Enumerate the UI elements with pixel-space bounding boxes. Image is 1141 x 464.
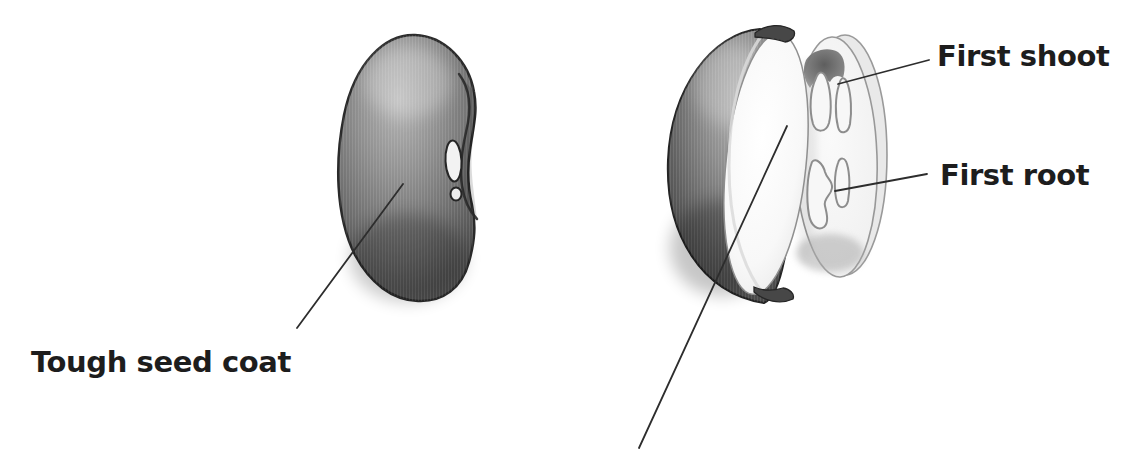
label-first-root: First root [940, 160, 1089, 190]
split-seed [668, 26, 887, 303]
label-first-shoot: First shoot [937, 41, 1110, 71]
seed-highlight [364, 46, 452, 118]
whole-seed [338, 35, 477, 302]
seed-bottom-shadow [350, 214, 466, 302]
face-bottom-shading [796, 234, 864, 272]
label-tough-seed-coat: Tough seed coat [31, 347, 291, 377]
seed-diagram-canvas: Tough seed coat First shoot First root [0, 0, 1141, 464]
micropyle-dot [451, 188, 462, 201]
